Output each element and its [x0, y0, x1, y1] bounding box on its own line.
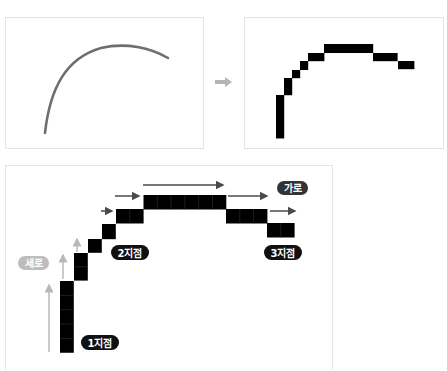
svg-text:세로: 세로: [25, 257, 43, 269]
curve-canvas: [6, 18, 205, 150]
svg-text:가로: 가로: [284, 182, 302, 194]
step-blocks: [60, 195, 295, 353]
steps-canvas: 세로 가로 1지점 2지점 3지점: [6, 166, 334, 371]
pixel-run-5: [308, 53, 324, 61]
step-run-7: [226, 209, 267, 223]
step-run-1: [60, 281, 74, 353]
step-run-6: [144, 195, 227, 209]
step-run-8: [267, 223, 295, 237]
step-run-3: [88, 239, 102, 253]
pixel-run-6: [324, 44, 373, 53]
pixel-run-1: [276, 95, 284, 138]
smooth-curve-line: [45, 46, 168, 133]
svg-text:3지점: 3지점: [271, 247, 296, 259]
pixel-run-3: [292, 70, 300, 78]
pixel-run-7: [373, 53, 398, 61]
label-horizontal: 가로: [277, 181, 308, 195]
pixel-run-8: [398, 61, 414, 69]
pixel-panel: [244, 17, 444, 149]
pixel-run-4: [300, 61, 308, 70]
label-point-2: 2지점: [111, 245, 149, 260]
pixel-run-2: [284, 78, 292, 95]
step-run-2: [74, 253, 88, 281]
step-run-4: [102, 224, 116, 239]
label-vertical: 세로: [18, 256, 49, 270]
svg-text:1지점: 1지점: [88, 337, 113, 349]
step-run-5: [116, 209, 144, 223]
label-point-1: 1지점: [81, 335, 119, 350]
arrow-right-icon: [214, 76, 234, 88]
steps-panel: 세로 가로 1지점 2지점 3지점: [5, 165, 333, 370]
label-point-3: 3지점: [264, 245, 302, 260]
pixel-canvas: [245, 18, 445, 150]
curve-panel: [5, 17, 204, 149]
svg-text:2지점: 2지점: [118, 247, 143, 259]
